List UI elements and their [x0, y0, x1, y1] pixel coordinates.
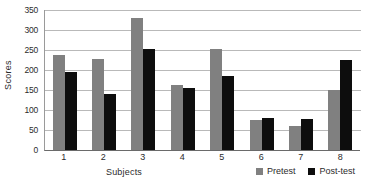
legend-swatch-icon — [308, 168, 315, 175]
bar-group — [203, 10, 242, 150]
x-axis-tick-label: 2 — [84, 152, 124, 168]
y-axis-tick-label: 350 — [24, 5, 38, 15]
bar-pretest — [92, 59, 104, 150]
plot-area — [44, 10, 360, 151]
bar-pretest — [250, 120, 262, 150]
bar-group — [84, 10, 123, 150]
bar-post-test — [104, 94, 116, 150]
bar-post-test — [183, 88, 195, 150]
bar-pretest — [210, 49, 222, 150]
legend-swatch-icon — [256, 168, 263, 175]
bar-post-test — [143, 49, 155, 150]
legend-label: Post-test — [319, 166, 355, 176]
legend-label: Pretest — [267, 166, 296, 176]
bar-group — [163, 10, 202, 150]
y-axis-tick-label: 300 — [24, 25, 38, 35]
y-axis-title-text: Scores — [3, 60, 13, 90]
bar-post-test — [340, 60, 352, 150]
y-axis-tick-label: 0 — [33, 145, 38, 155]
x-axis-title: Subjects — [44, 167, 204, 177]
y-axis-tick-label: 200 — [24, 65, 38, 75]
bar-post-test — [301, 119, 313, 150]
x-axis-tick-label: 4 — [163, 152, 203, 168]
y-axis-tick-labels: 050100150200250300350 — [16, 10, 41, 150]
y-axis-tick-label: 150 — [24, 85, 38, 95]
y-axis-tick-label: 50 — [29, 125, 38, 135]
bar-pretest — [289, 126, 301, 150]
x-axis-tick-label: 5 — [202, 152, 242, 168]
y-axis-title: Scores — [0, 0, 16, 150]
legend-item[interactable]: Pretest — [256, 166, 296, 176]
x-axis-tick-label: 3 — [123, 152, 163, 168]
bar-pretest — [53, 55, 65, 150]
bar-pretest — [131, 18, 143, 150]
bar-post-test — [65, 72, 77, 150]
bar-post-test — [262, 118, 274, 150]
bar-group — [281, 10, 320, 150]
bar-chart: Scores 050100150200250300350 12345678 Su… — [0, 0, 369, 196]
bar-group — [242, 10, 281, 150]
bar-group — [45, 10, 84, 150]
legend: PretestPost-test — [256, 166, 355, 176]
bar-groups — [45, 10, 360, 150]
bar-pretest — [328, 90, 340, 150]
bar-group — [321, 10, 360, 150]
x-axis-tick-label: 1 — [44, 152, 84, 168]
bar-pretest — [171, 85, 183, 150]
legend-item[interactable]: Post-test — [308, 166, 355, 176]
y-axis-tick-label: 100 — [24, 105, 38, 115]
bar-group — [124, 10, 163, 150]
y-axis-tick-label: 250 — [24, 45, 38, 55]
bar-post-test — [222, 76, 234, 150]
